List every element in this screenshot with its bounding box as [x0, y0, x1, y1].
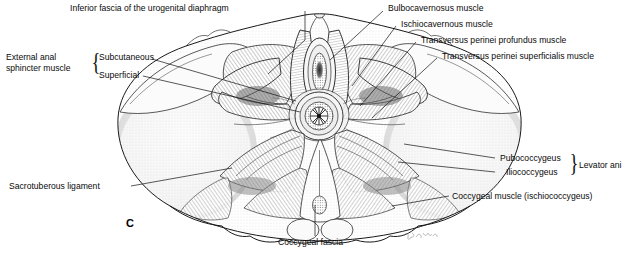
- artist-signature: [404, 233, 437, 239]
- label-levator-ani: Levator ani: [579, 160, 622, 170]
- label-iliococcygeus: Iliococcygeus: [506, 167, 558, 177]
- label-coccygeal-fascia: Coccygeal fascia: [278, 237, 343, 247]
- label-ischiocavernous: Ischiocavernous muscle: [401, 19, 493, 29]
- figure-panel: Inferior fascia of the urogenital diaphr…: [0, 0, 639, 255]
- label-external-anal-sphincter: External anal sphincter muscle: [6, 52, 92, 73]
- label-inferior-fascia: Inferior fascia of the urogenital diaphr…: [70, 3, 229, 13]
- label-bulbocavernosus: Bulbocavernosus muscle: [388, 3, 484, 13]
- label-transversus-profundus: Transversus perinei profundus muscle: [421, 35, 566, 45]
- label-external-anal-sphincter-line1: External anal: [6, 52, 56, 62]
- label-sacrotuberous-ligament: Sacrotuberous ligament: [9, 181, 100, 191]
- label-external-anal-sphincter-line2: sphincter muscle: [6, 63, 70, 73]
- label-coccygeal-muscle: Coccygeal muscle (ischiococcygeus): [452, 191, 592, 201]
- label-subcutaneous: Subcutaneous: [99, 52, 154, 62]
- label-superficial: Superficial: [99, 70, 139, 80]
- panel-letter: C: [126, 217, 134, 229]
- brace-levator-ani: }: [570, 150, 579, 175]
- label-transversus-superficialis: Transversus perinei superficialis muscle: [442, 51, 594, 61]
- label-pubococcygeus: Pubococcygeus: [500, 153, 561, 163]
